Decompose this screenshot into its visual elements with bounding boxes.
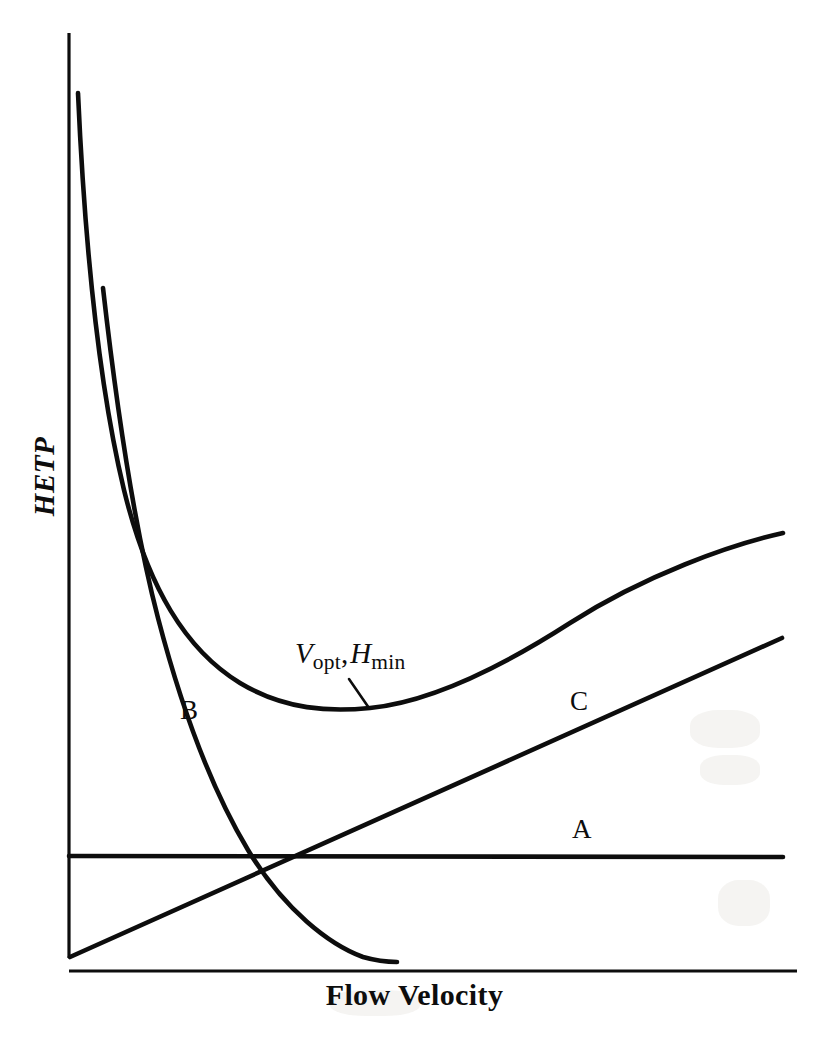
curve-label-a: A	[572, 816, 592, 843]
curve-label-c: C	[570, 688, 588, 715]
annotation-v-subscript: opt	[313, 650, 341, 674]
annotation-leader-line	[349, 679, 369, 708]
annotation-h-symbol: H	[350, 637, 371, 669]
annotation-h-subscript: min	[371, 650, 405, 674]
annotation-separator: ,	[341, 637, 350, 669]
curve-sum-van-deemter	[78, 93, 783, 710]
curve-b-longitudinal-diffusion	[103, 288, 397, 962]
chart-plot-area	[0, 0, 829, 1043]
y-axis-label: HETP	[28, 417, 61, 537]
x-axis-label: Flow Velocity	[0, 978, 829, 1012]
curve-a-eddy-diffusion	[69, 856, 783, 857]
annotation-v-symbol: V	[295, 637, 313, 669]
annotation-vopt-hmin: Vopt,Hmin	[295, 639, 406, 673]
curve-label-b: B	[180, 697, 198, 724]
chart-figure: HETP Flow Velocity Vopt,Hmin A B C	[0, 0, 829, 1043]
